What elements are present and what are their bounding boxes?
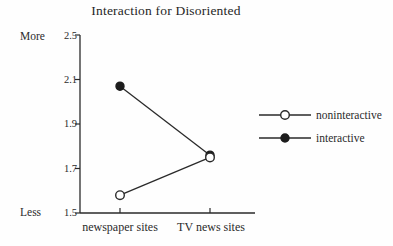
x-category-tv-news-sites: TV news sites	[149, 220, 273, 235]
legend-label-interactive: interactive	[316, 132, 365, 144]
legend: noninteractive interactive	[259, 104, 382, 149]
open-circle-marker-icon	[259, 108, 311, 122]
filled-circle-marker-icon	[259, 131, 311, 145]
legend-item-noninteractive: noninteractive	[259, 104, 382, 126]
legend-item-interactive: interactive	[259, 127, 382, 149]
interaction-chart-figure: Interaction for Disoriented More Less 2.…	[0, 0, 393, 246]
legend-label-noninteractive: noninteractive	[316, 109, 382, 121]
